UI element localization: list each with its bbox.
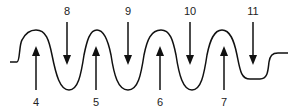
wave-arrow-diagram: 4567 891011	[0, 0, 297, 111]
up-arrow-7: 7	[220, 46, 228, 108]
diagram-canvas: 4567 891011	[0, 0, 297, 111]
arrow-label: 4	[33, 96, 39, 108]
down-arrow-11: 11	[247, 5, 258, 65]
down-arrow-8: 8	[63, 5, 71, 65]
arrow-label: 5	[93, 96, 99, 108]
up-arrow-6: 6	[156, 46, 164, 108]
arrow-up-icon	[220, 46, 228, 56]
arrow-up-icon	[156, 46, 164, 56]
arrow-label: 8	[64, 5, 70, 17]
up-arrow-5: 5	[92, 46, 100, 108]
arrow-label: 10	[184, 5, 196, 17]
arrow-label: 6	[157, 96, 163, 108]
arrow-down-icon	[124, 55, 132, 65]
up-arrow-4: 4	[32, 46, 40, 108]
down-arrow-9: 9	[124, 5, 132, 65]
arrow-up-icon	[32, 46, 40, 56]
arrow-label: 11	[247, 5, 258, 17]
arrow-down-icon	[186, 55, 194, 65]
wavy-line	[10, 30, 288, 90]
arrow-label: 9	[125, 5, 131, 17]
down-arrow-10: 10	[184, 5, 196, 65]
arrow-label: 7	[221, 96, 227, 108]
arrow-up-icon	[92, 46, 100, 56]
arrow-down-icon	[249, 55, 257, 65]
arrow-down-icon	[63, 55, 71, 65]
